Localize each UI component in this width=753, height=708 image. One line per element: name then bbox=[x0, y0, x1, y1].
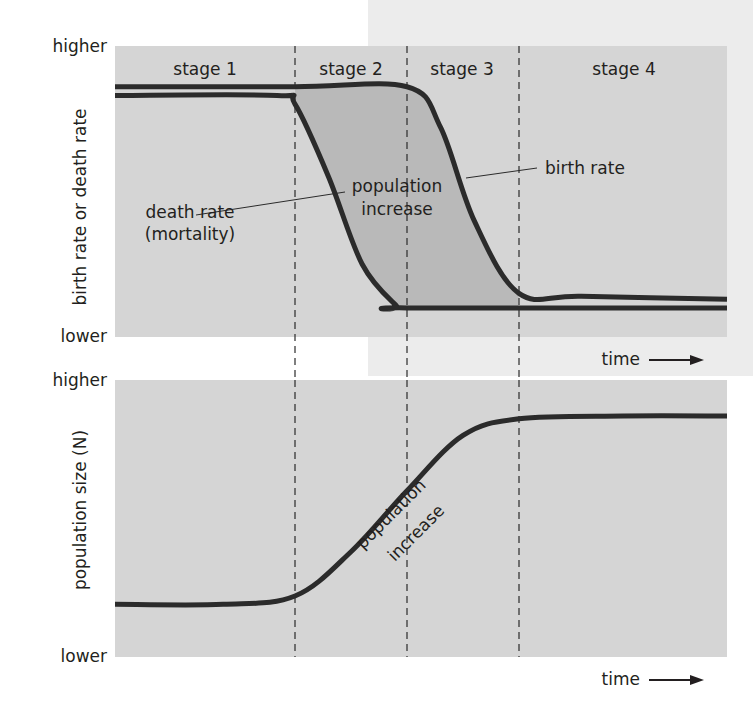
death-rate-label: death rate bbox=[145, 202, 234, 222]
population-increase-label-line2: increase bbox=[361, 199, 433, 219]
stage-3-label: stage 3 bbox=[430, 59, 493, 79]
top-panel: stage 1 stage 2 stage 3 stage 4 birth ra… bbox=[52, 36, 727, 380]
stage-1-label: stage 1 bbox=[173, 59, 236, 79]
stage-4-label: stage 4 bbox=[592, 59, 655, 79]
top-x-arrow-icon bbox=[649, 355, 704, 365]
stage-2-label: stage 2 bbox=[319, 59, 382, 79]
bottom-y-high-label: higher bbox=[52, 370, 107, 390]
bottom-x-axis-label: time bbox=[602, 669, 640, 689]
top-y-high-label: higher bbox=[52, 36, 107, 56]
bottom-y-low-label: lower bbox=[61, 646, 107, 666]
birth-rate-label: birth rate bbox=[545, 158, 625, 178]
bottom-x-arrow-icon bbox=[649, 675, 704, 685]
demographic-transition-figure: stage 1 stage 2 stage 3 stage 4 birth ra… bbox=[0, 0, 753, 708]
bottom-panel: population increase higher lower populat… bbox=[52, 370, 727, 689]
top-y-low-label: lower bbox=[61, 326, 107, 346]
bottom-y-axis-label: population size (N) bbox=[70, 430, 90, 590]
top-x-axis-label: time bbox=[602, 349, 640, 369]
top-y-axis-label: birth rate or death rate bbox=[70, 108, 90, 305]
population-increase-label-line1: population bbox=[352, 176, 442, 196]
mortality-label: (mortality) bbox=[145, 224, 235, 244]
